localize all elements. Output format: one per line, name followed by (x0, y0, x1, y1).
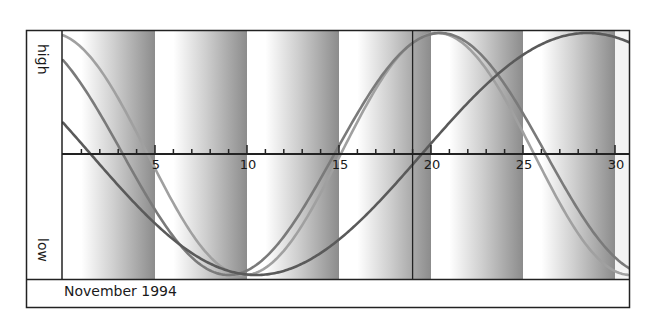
tick-label: 10 (240, 157, 257, 172)
tick-label: 20 (424, 157, 441, 172)
tick-label: 5 (152, 157, 160, 172)
month-label: November 1994 (64, 283, 177, 299)
y-label-high: high (35, 44, 51, 75)
tick-label: 25 (516, 157, 533, 172)
tick-label: 15 (332, 157, 349, 172)
y-label-low: low (35, 238, 51, 262)
tick-label: 30 (608, 157, 625, 172)
